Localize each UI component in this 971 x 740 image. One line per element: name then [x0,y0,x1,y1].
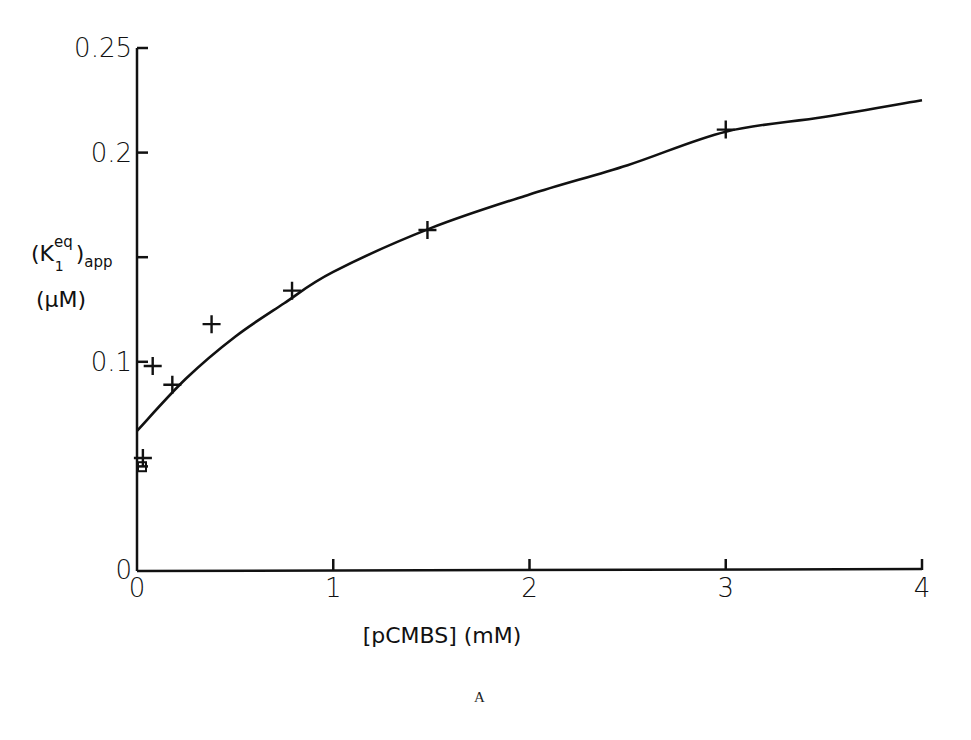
y-tick-label: 0.25 [74,33,132,63]
x-tick-label: 3 [717,573,734,603]
x-axis-title: [pCMBS] (mM) [363,623,522,648]
tick-labels: 0123400.10.20.25 [74,33,930,603]
plus-marker [283,282,301,300]
y-tick-label: 0.1 [91,347,132,377]
y-axis-title: (Keq1)app(µM) [31,233,113,312]
fitted-curve [137,100,922,431]
y-axis-label: (Keq1)app [31,233,113,274]
x-axis-label: [pCMBS] (mM) [363,623,522,648]
data-markers [134,121,735,472]
axes [137,48,922,571]
y-axis-unit: (µM) [36,287,86,312]
plus-marker [717,121,735,139]
y-tick-label: 0 [115,555,132,585]
plus-marker [418,221,436,239]
chart: 0123400.10.20.25 (Keq1)app(µM) [pCMBS] (… [0,0,971,740]
figure-caption: A [474,689,485,706]
plus-marker [163,376,181,394]
plus-marker [203,315,221,333]
x-tick-label: 1 [325,573,342,603]
y-tick-label: 0.2 [91,138,132,168]
plus-marker [144,357,162,375]
x-tick-label: 4 [914,573,931,603]
x-tick-label: 2 [521,573,538,603]
